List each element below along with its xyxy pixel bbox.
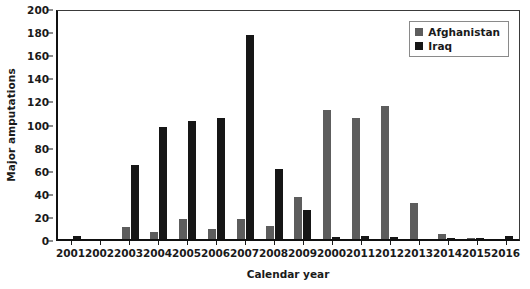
x-tick: 2016 xyxy=(491,241,520,271)
x-tick-label: 2006 xyxy=(201,247,230,259)
bar-group xyxy=(346,11,375,239)
x-tick-label: 2014 xyxy=(433,247,462,259)
y-tick-label: 200 xyxy=(27,4,49,16)
bar-afghanistan-2013 xyxy=(410,203,418,239)
y-tick-label: 180 xyxy=(27,27,49,39)
x-tick: 2000 xyxy=(317,241,346,271)
x-tick-label: 2016 xyxy=(491,247,520,259)
x-tick-mark xyxy=(100,241,101,245)
x-tick: 2007 xyxy=(230,241,259,271)
x-tick: 2002 xyxy=(85,241,114,271)
x-tick-mark xyxy=(332,241,333,245)
bar-chart-figure: Major amputations 0204060801001201401601… xyxy=(0,0,530,289)
x-tick-mark xyxy=(477,241,478,245)
bar-group xyxy=(116,11,145,239)
y-tick-mark xyxy=(48,148,53,149)
bar-afghanistan-2014 xyxy=(438,234,446,239)
legend-label: Iraq xyxy=(428,40,452,52)
y-axis-title: Major amputations xyxy=(0,0,22,250)
bar-iraq-2016 xyxy=(505,236,513,239)
y-tick-mark xyxy=(48,56,53,57)
x-tick: 2001 xyxy=(56,241,85,271)
x-tick-mark xyxy=(419,241,420,245)
bar-afghanistan-2008 xyxy=(266,226,274,239)
x-tick-mark xyxy=(390,241,391,245)
legend-label: Afghanistan xyxy=(428,26,500,38)
x-tick-mark xyxy=(506,241,507,245)
bar-afghanistan-2004 xyxy=(150,232,158,239)
x-tick-label: 2005 xyxy=(172,247,201,259)
x-tick-mark xyxy=(274,241,275,245)
legend-swatch-icon xyxy=(415,42,423,50)
x-tick-mark xyxy=(129,241,130,245)
bar-afghanistan-2006 xyxy=(208,229,216,239)
bar-group xyxy=(173,11,202,239)
bar-group xyxy=(87,11,116,239)
y-axis-ticks: 020406080100120140160180200 xyxy=(22,0,53,250)
x-tick-label: 2004 xyxy=(143,247,172,259)
bar-afghanistan-2012 xyxy=(381,106,389,239)
x-tick: 2005 xyxy=(172,241,201,271)
bar-iraq-2011 xyxy=(361,236,369,239)
bar-afghanistan-2005 xyxy=(179,219,187,239)
x-tick: 2014 xyxy=(433,241,462,271)
y-tick-mark xyxy=(48,217,53,218)
legend-swatch-icon xyxy=(415,28,423,36)
x-tick-label: 2007 xyxy=(230,247,259,259)
bar-group xyxy=(202,11,231,239)
x-tick-label: 2002 xyxy=(85,247,114,259)
y-tick-mark xyxy=(48,125,53,126)
x-tick-mark xyxy=(158,241,159,245)
y-tick-mark xyxy=(48,79,53,80)
bar-group xyxy=(260,11,289,239)
x-tick-label: 2008 xyxy=(259,247,288,259)
bar-iraq-2009 xyxy=(303,210,311,239)
bar-iraq-2007 xyxy=(246,35,254,239)
x-tick: 2015 xyxy=(462,241,491,271)
y-tick-mark xyxy=(48,10,53,11)
bar-afghanistan-2003 xyxy=(122,227,130,239)
x-tick-mark xyxy=(187,241,188,245)
x-tick-label: 2003 xyxy=(114,247,143,259)
x-axis-title: Calendar year xyxy=(56,268,520,280)
y-tick-mark xyxy=(48,102,53,103)
x-tick-label: 2013 xyxy=(404,247,433,259)
x-tick: 2003 xyxy=(114,241,143,271)
bar-iraq-2012 xyxy=(390,237,398,239)
y-tick-label: 120 xyxy=(27,96,49,108)
y-tick-label: 20 xyxy=(34,212,49,224)
y-tick-mark xyxy=(48,171,53,172)
x-tick-label: 2012 xyxy=(375,247,404,259)
x-tick: 2009 xyxy=(288,241,317,271)
x-tick-mark xyxy=(303,241,304,245)
legend-item-afghanistan[interactable]: Afghanistan xyxy=(415,26,500,38)
bar-iraq-2015 xyxy=(476,238,484,239)
x-tick-label: 2015 xyxy=(462,247,491,259)
bar-iraq-2004 xyxy=(159,127,167,239)
x-tick-label: 2011 xyxy=(346,247,375,259)
y-tick-label: 60 xyxy=(34,166,49,178)
bar-iraq-2014 xyxy=(447,238,455,239)
bar-iraq-2006 xyxy=(217,118,225,239)
bar-iraq-2003 xyxy=(131,165,139,239)
x-tick-mark xyxy=(71,241,72,245)
x-tick-mark xyxy=(361,241,362,245)
bar-iraq-2005 xyxy=(188,121,196,239)
bar-iraq-2001 xyxy=(73,236,81,239)
bar-group xyxy=(289,11,318,239)
x-tick: 2011 xyxy=(346,241,375,271)
legend-item-iraq[interactable]: Iraq xyxy=(415,40,500,52)
bar-group xyxy=(58,11,87,239)
bar-group xyxy=(144,11,173,239)
bar-afghanistan-2011 xyxy=(352,118,360,239)
y-tick-label: 140 xyxy=(27,73,49,85)
bar-group xyxy=(231,11,260,239)
x-axis-ticks: 2001200220032004200520062007200820092000… xyxy=(56,241,520,271)
x-tick: 2013 xyxy=(404,241,433,271)
bar-afghanistan-2015 xyxy=(467,238,475,239)
y-tick-label: 160 xyxy=(27,50,49,62)
x-tick: 2012 xyxy=(375,241,404,271)
y-tick-mark xyxy=(48,241,53,242)
x-tick-label: 2001 xyxy=(56,247,85,259)
y-tick-mark xyxy=(48,194,53,195)
